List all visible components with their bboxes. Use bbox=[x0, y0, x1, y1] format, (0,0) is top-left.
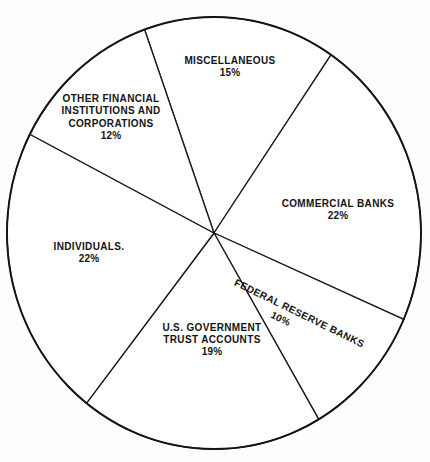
pie-chart-figure: MISCELLANEOUS 15% OTHER FINANCIAL INSTIT… bbox=[0, 0, 430, 462]
slice-label-other-financial-line3: CORPORATIONS bbox=[38, 118, 184, 130]
slice-label-individuals-percent: 22% bbox=[28, 253, 150, 265]
slice-label-miscellaneous-percent: 15% bbox=[160, 67, 300, 79]
slice-label-other-financial-line1: OTHER FINANCIAL bbox=[38, 93, 184, 105]
slice-label-individuals: INDIVIDUALS. 22% bbox=[28, 241, 150, 265]
slice-label-other-financial-line2: INSTITUTIONS AND bbox=[38, 105, 184, 117]
slice-label-us-government-trust-accounts: U.S. GOVERNMENT TRUST ACCOUNTS 19% bbox=[140, 322, 284, 359]
slice-label-miscellaneous: MISCELLANEOUS 15% bbox=[160, 55, 300, 79]
pie-slice-group bbox=[7, 17, 421, 449]
slice-label-us-government-line2: TRUST ACCOUNTS bbox=[140, 334, 284, 346]
slice-label-commercial-banks: COMMERCIAL BANKS 22% bbox=[268, 198, 408, 222]
slice-label-miscellaneous-line1: MISCELLANEOUS bbox=[160, 55, 300, 67]
slice-label-individuals-line1: INDIVIDUALS. bbox=[28, 241, 150, 253]
slice-label-other-financial-percent: 12% bbox=[38, 130, 184, 142]
slice-label-commercial-banks-line1: COMMERCIAL BANKS bbox=[268, 198, 408, 210]
slice-label-us-government-percent: 19% bbox=[140, 346, 284, 358]
slice-label-commercial-banks-percent: 22% bbox=[268, 210, 408, 222]
slice-label-other-financial: OTHER FINANCIAL INSTITUTIONS AND CORPORA… bbox=[38, 93, 184, 143]
slice-label-us-government-line1: U.S. GOVERNMENT bbox=[140, 322, 284, 334]
